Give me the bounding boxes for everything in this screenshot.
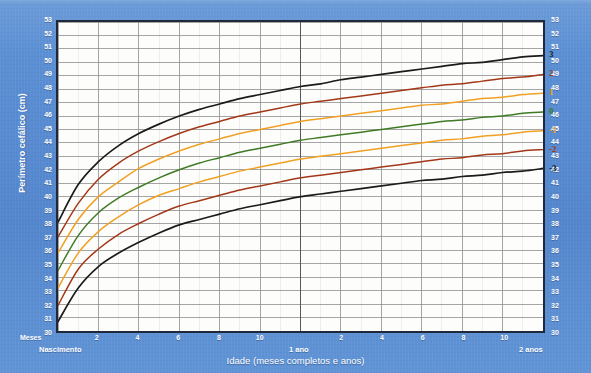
y-tick-right-32: 32 [551, 302, 571, 310]
y-tick-left-37: 37 [34, 234, 52, 242]
y-tick-left-31: 31 [34, 315, 52, 323]
x-tick-22m: 10 [500, 334, 508, 341]
y-tick-left-50: 50 [34, 57, 52, 65]
x-tick-10m: 10 [256, 334, 264, 341]
nascimento-label: Nascimento [39, 345, 82, 354]
zscore-label-minus3: -3 [549, 163, 565, 173]
x-tick-20m: 8 [462, 334, 466, 341]
y-tick-right-53: 53 [551, 16, 571, 24]
x-tick-2m: 2 [95, 334, 99, 341]
x-tick-8m: 8 [217, 334, 221, 341]
two-years-label: 2 anos [519, 345, 543, 354]
y-tick-left-42: 42 [34, 166, 52, 174]
y-tick-right-52: 52 [551, 30, 571, 38]
meses-label: Meses [20, 334, 41, 341]
y-tick-left-33: 33 [34, 288, 52, 296]
y-tick-right-34: 34 [551, 275, 571, 283]
x-tick-18m: 6 [421, 334, 425, 341]
one-year-label: 1 ano [289, 345, 309, 354]
zscore-label-minus2: -2 [549, 144, 565, 154]
x-tick-14m: 2 [339, 334, 343, 341]
y-tick-left-32: 32 [34, 302, 52, 310]
y-tick-left-49: 49 [34, 70, 52, 78]
y-tick-right-38: 38 [551, 220, 571, 228]
y-tick-left-48: 48 [34, 84, 52, 92]
y-tick-right-30: 30 [551, 329, 571, 337]
y-tick-left-38: 38 [34, 220, 52, 228]
zscore-curves [58, 22, 543, 331]
y-tick-left-36: 36 [34, 247, 52, 255]
zscore-label-3: 3 [549, 49, 565, 59]
x-tick-6m: 6 [176, 334, 180, 341]
y-tick-right-40: 40 [551, 193, 571, 201]
y-tick-right-47: 47 [551, 98, 571, 106]
top-edge-stripe [0, 0, 591, 4]
y-tick-right-37: 37 [551, 234, 571, 242]
growth-chart-screenshot: Perímetro cefálico (cm) 3031323334353637… [0, 0, 591, 373]
zscore-label-0: 0 [549, 106, 565, 116]
zscore-label-1: 1 [549, 87, 565, 97]
y-tick-right-41: 41 [551, 179, 571, 187]
y-tick-right-39: 39 [551, 207, 571, 215]
y-tick-left-39: 39 [34, 207, 52, 215]
y-axis-left-ticks: 3031323334353637383940414243444546474849… [30, 0, 52, 373]
x-tick-16m: 4 [380, 334, 384, 341]
x-tick-4m: 4 [136, 334, 140, 341]
y-tick-left-46: 46 [34, 111, 52, 119]
plot-area [56, 20, 545, 333]
y-tick-left-35: 35 [34, 261, 52, 269]
y-tick-right-33: 33 [551, 288, 571, 296]
x-axis-title: Idade (meses completos e anos) [0, 355, 591, 366]
y-tick-left-34: 34 [34, 275, 52, 283]
y-tick-left-43: 43 [34, 152, 52, 160]
y-tick-left-47: 47 [34, 98, 52, 106]
y-tick-left-40: 40 [34, 193, 52, 201]
y-tick-right-35: 35 [551, 261, 571, 269]
y-tick-left-53: 53 [34, 16, 52, 24]
y-tick-right-36: 36 [551, 247, 571, 255]
y-tick-left-44: 44 [34, 138, 52, 146]
y-tick-left-45: 45 [34, 125, 52, 133]
y-tick-left-41: 41 [34, 179, 52, 187]
zscore-label-2: 2 [549, 68, 565, 78]
zscore-label-minus1: -1 [549, 125, 565, 135]
y-axis-title: Perímetro cefálico (cm) [17, 68, 27, 218]
y-tick-left-52: 52 [34, 30, 52, 38]
y-tick-right-31: 31 [551, 315, 571, 323]
y-tick-left-51: 51 [34, 43, 52, 51]
